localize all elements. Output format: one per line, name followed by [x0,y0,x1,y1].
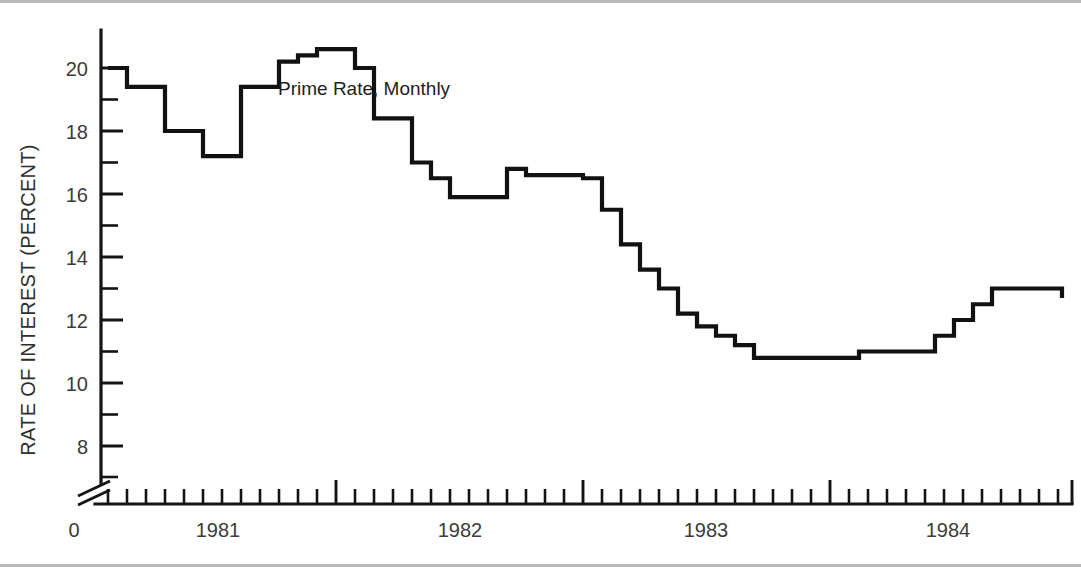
x-major-ticks [336,480,1072,504]
y-tick-label-12: 12 [66,310,88,332]
x-tick-label-1982: 1982 [438,519,483,541]
series-annotation-label: Prime Rate, Monthly [278,78,451,99]
chart-canvas: 20 18 16 14 12 10 8 RATE OF INTEREST (PE… [0,0,1081,567]
x-tick-label-1983: 1983 [684,519,729,541]
y-axis-title: RATE OF INTEREST (PERCENT) [17,144,39,456]
y-axis: 20 18 16 14 12 10 8 RATE OF INTEREST (PE… [17,30,123,484]
x-origin-label: 0 [68,519,79,541]
prime-rate-chart-figure: 20 18 16 14 12 10 8 RATE OF INTEREST (PE… [0,0,1081,567]
y-tick-label-14: 14 [66,247,88,269]
x-tick-label-1981: 1981 [196,519,241,541]
prime-rate-series-line [108,49,1062,358]
y-tick-label-18: 18 [66,121,88,143]
y-tick-label-16: 16 [66,184,88,206]
x-axis: 0 1981 1982 1983 1984 [68,480,1072,541]
y-tick-label-8: 8 [77,436,88,458]
y-tick-label-10: 10 [66,373,88,395]
x-tick-label-1984: 1984 [926,519,971,541]
page-edge-top [0,0,1081,3]
axis-break-symbol [78,481,110,505]
y-tick-label-20: 20 [66,58,88,80]
